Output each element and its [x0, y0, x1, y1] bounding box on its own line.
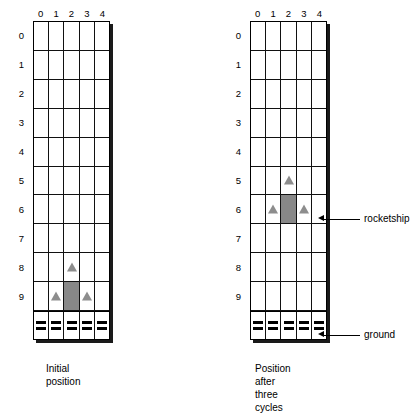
ground-row [251, 311, 326, 339]
grid-cell [251, 253, 266, 281]
row-label: 2 [6, 79, 28, 108]
grid-cell [34, 195, 49, 223]
grid-cell [266, 224, 281, 252]
rocketship-fin-cell [266, 195, 281, 223]
column-label: 2 [281, 8, 296, 20]
ground-dash [253, 327, 263, 330]
column-label: 0 [33, 8, 48, 20]
grid-row [251, 80, 326, 109]
grid-cell [297, 253, 312, 281]
rocketship-body [64, 282, 79, 310]
row-label: 3 [223, 108, 245, 137]
row-label: 6 [6, 195, 28, 224]
grid-cell [312, 80, 326, 108]
grid-cell [49, 167, 64, 195]
grid-cell [49, 253, 64, 281]
grid-cell [251, 167, 266, 195]
grid-row [251, 109, 326, 138]
row-label: 8 [223, 253, 245, 282]
grid-row [34, 109, 109, 138]
grid-cell [251, 22, 266, 50]
rocketship-nose-cell [281, 167, 296, 195]
grid-cell [251, 195, 266, 223]
rocketship-nose-cell [64, 253, 79, 281]
rocketship-nose-icon [284, 176, 294, 185]
ground-dash [268, 321, 278, 324]
ground-dash [299, 321, 309, 324]
grid-cell [64, 22, 79, 50]
grid-cell [266, 282, 281, 310]
grid-cell [251, 80, 266, 108]
grid-cell [80, 167, 95, 195]
rocketship-fin-cell [80, 282, 95, 310]
grid-cell [251, 51, 266, 79]
grid-row [34, 138, 109, 167]
grid-cell [297, 224, 312, 252]
grid-cell [297, 109, 312, 137]
grid-row [251, 138, 326, 167]
rocketship-fin-icon [268, 205, 278, 214]
grid-cell [34, 80, 49, 108]
grid-row [34, 224, 109, 253]
grid-cell [64, 109, 79, 137]
grid-row [34, 253, 109, 282]
row-label: 0 [6, 21, 28, 50]
ground-cell [251, 312, 266, 339]
grid-row [34, 167, 109, 196]
grid-cell [49, 80, 64, 108]
grid-cell [64, 224, 79, 252]
grid-cell [312, 253, 326, 281]
grid-cell [49, 51, 64, 79]
grid-cell [95, 51, 109, 79]
row-label: 4 [223, 137, 245, 166]
ground-cell [95, 312, 109, 339]
grid-cell [312, 224, 326, 252]
panel-caption: Position after three cycles [255, 362, 291, 414]
grid-cell [297, 282, 312, 310]
grid-cell [281, 80, 296, 108]
ground-dash [253, 321, 263, 324]
rocketship-annotation-label: rocketship [364, 213, 410, 225]
ground-cell [281, 312, 296, 339]
ground-cell [34, 312, 49, 339]
grid-cell [251, 138, 266, 166]
grid-row [34, 80, 109, 109]
row-label: 6 [223, 195, 245, 224]
grid-cell [251, 224, 266, 252]
ground-dash [284, 327, 294, 330]
grid-row [251, 195, 326, 224]
grid-rows [251, 22, 326, 311]
grid-right [250, 21, 327, 340]
grid-cell [80, 22, 95, 50]
grid-cell [281, 224, 296, 252]
grid-cell [95, 22, 109, 50]
grid-row [251, 167, 326, 196]
grid-body [33, 21, 110, 340]
row-label: 7 [6, 224, 28, 253]
grid-row [251, 224, 326, 253]
column-label: 3 [296, 8, 311, 20]
rocketship-fin-icon [51, 292, 61, 301]
ground-cell [266, 312, 281, 339]
grid-row [34, 282, 109, 311]
ground-dash [97, 327, 107, 330]
grid-rows [34, 22, 109, 311]
rocketship-arrow-line [324, 219, 360, 220]
grid-cell [312, 51, 326, 79]
row-label: 5 [6, 166, 28, 195]
row-labels-right: 0 1 2 3 4 5 6 7 8 9 [223, 21, 245, 311]
grid-cell [34, 253, 49, 281]
grid-cell [49, 138, 64, 166]
grid-cell [34, 224, 49, 252]
grid-row [34, 51, 109, 80]
row-label: 9 [223, 282, 245, 311]
grid-row [251, 51, 326, 80]
grid-cell [80, 109, 95, 137]
grid-cell [34, 22, 49, 50]
ground-dash [36, 321, 46, 324]
grid-cell [95, 138, 109, 166]
grid-cell [297, 167, 312, 195]
ground-dash [284, 321, 294, 324]
grid-cell [34, 167, 49, 195]
ground-dash [314, 321, 324, 324]
